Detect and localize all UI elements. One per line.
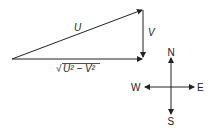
label-u: U bbox=[74, 22, 82, 33]
sqrt-sign: √ bbox=[56, 63, 62, 74]
label-v: V bbox=[148, 27, 156, 38]
vector-u-arrow bbox=[12, 10, 142, 59]
compass-label-n: N bbox=[168, 47, 175, 58]
vector-diagram: U V √ U² − V² N S E W bbox=[0, 0, 216, 135]
sqrt-radicand: U² − V² bbox=[63, 63, 96, 74]
compass-label-e: E bbox=[197, 82, 204, 93]
label-base: √ U² − V² bbox=[56, 63, 100, 74]
compass-label-s: S bbox=[168, 116, 175, 127]
compass-label-w: W bbox=[131, 82, 141, 93]
vector-triangle: U V √ U² − V² bbox=[12, 10, 156, 74]
